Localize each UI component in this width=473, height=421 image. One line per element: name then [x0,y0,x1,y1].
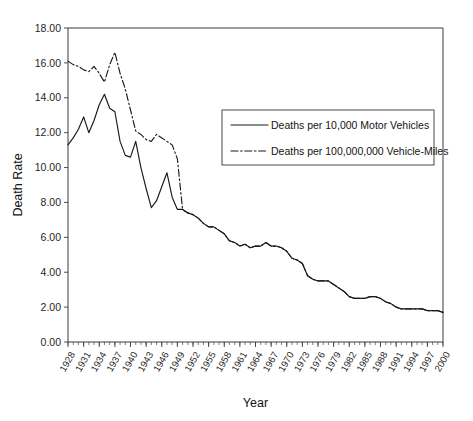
y-axis-title: Death Rate [11,153,25,216]
y-tick-label: 6.00 [41,231,62,243]
x-axis-title: Year [243,396,268,410]
y-tick-label: 4.00 [41,266,62,278]
legend-label-2: Deaths per 100,000,000 Vehicle-Miles [271,145,448,157]
y-tick-label: 12.00 [35,126,61,138]
y-tick-label: 2.00 [41,301,62,313]
y-tick-label: 18.00 [35,22,61,34]
plot-frame [68,28,443,342]
line-chart: 0.002.004.006.008.0010.0012.0014.0016.00… [0,0,473,421]
y-tick-label: 10.00 [35,161,61,173]
y-tick-label: 14.00 [35,91,61,103]
chart-figure: 0.002.004.006.008.0010.0012.0014.0016.00… [0,0,473,421]
y-tick-label: 0.00 [41,336,62,348]
legend-label-1: Deaths per 10,000 Motor Vehicles [271,119,429,131]
x-tick-label: 2000 [432,350,452,374]
y-tick-label: 16.00 [35,57,61,69]
y-tick-label: 8.00 [41,196,62,208]
series-line-2 [68,52,443,312]
